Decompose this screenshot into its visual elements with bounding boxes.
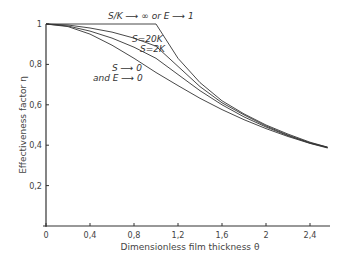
curve-1 xyxy=(46,24,328,147)
annotation-s20k: S=20K xyxy=(132,34,164,44)
curve-3 xyxy=(46,24,328,148)
y-tick-label: 0,2 xyxy=(29,181,42,191)
x-tick-label: 0,4 xyxy=(84,230,97,240)
x-tick-label: 0,8 xyxy=(128,230,141,240)
curve-4 xyxy=(46,24,328,148)
y-tick-label: 0,6 xyxy=(29,100,42,110)
annotation-top-curve: S/K ⟶ ∞ or E ⟶ 1 xyxy=(108,11,194,21)
x-tick-label: 1,6 xyxy=(216,230,229,240)
x-tick-label: 2 xyxy=(263,230,268,240)
annotation-s2k: S=2K xyxy=(140,44,166,54)
annotation-s0: S ⟶ 0 xyxy=(112,63,142,73)
curves xyxy=(46,24,328,148)
y-tick-label: 0,8 xyxy=(29,59,42,69)
y-axis-label: Effectiveness factor η xyxy=(18,76,28,174)
y-tick-label: 1 xyxy=(37,19,42,29)
x-tick-label: 1,2 xyxy=(172,230,185,240)
y-tick-label: 0,4 xyxy=(29,140,42,150)
curve-2 xyxy=(46,24,328,147)
x-tick-label: 0 xyxy=(43,230,48,240)
annotation-e0: and E ⟶ 0 xyxy=(93,73,143,83)
x-axis-label: Dimensionless film thickness θ xyxy=(121,242,260,252)
x-tick-label: 2,4 xyxy=(304,230,317,240)
effectiveness-chart: 00,40,81,21,622,4 0,20,40,60,81 Dimensio… xyxy=(0,0,350,267)
axes xyxy=(43,24,330,227)
